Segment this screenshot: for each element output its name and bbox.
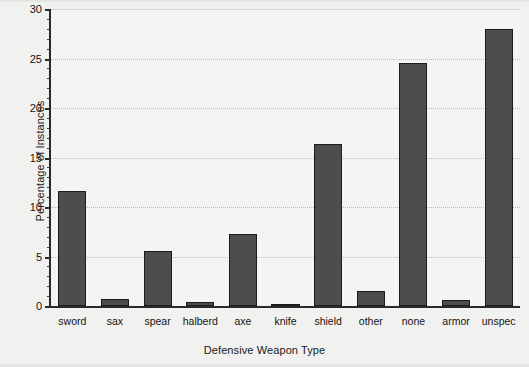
y-tick-label: 10 [30,201,42,213]
bar [58,191,86,306]
y-minor-tick [47,197,51,198]
y-minor-tick [47,78,51,79]
y-minor-tick [47,266,51,267]
x-axis-title: Defensive Weapon Type [0,344,529,356]
y-tick-mark [45,108,51,110]
x-tick-label: knife [274,315,296,327]
y-minor-tick [47,118,51,119]
gridline [51,158,520,159]
bar [399,63,427,306]
y-minor-tick [47,19,51,20]
x-tick-label: sax [107,315,123,327]
x-tick-label: armor [442,315,469,327]
gridline [51,108,520,109]
y-tick-label: 30 [30,3,42,15]
gridline [51,9,520,10]
bar [229,234,257,306]
bar [485,29,513,306]
x-tick-label: sword [58,315,86,327]
y-tick-mark [45,207,51,209]
bar [186,302,214,306]
y-minor-tick [47,217,51,218]
y-minor-tick [47,187,51,188]
bar-chart: Percentage of Instances 051015202530 swo… [0,0,529,367]
y-minor-tick [47,296,51,297]
y-minor-tick [47,167,51,168]
y-tick-label: 25 [30,53,42,65]
bar [271,304,299,306]
y-minor-tick [47,29,51,30]
y-minor-tick [47,286,51,287]
y-minor-tick [47,98,51,99]
gridline [51,207,520,208]
y-tick-mark [45,306,51,308]
y-minor-tick [47,247,51,248]
y-minor-tick [47,148,51,149]
y-tick-label: 15 [30,152,42,164]
y-minor-tick [47,128,51,129]
gridline [51,257,520,258]
y-tick-mark [45,59,51,61]
x-tick-label: halberd [183,315,218,327]
y-tick-label: 20 [30,102,42,114]
y-tick-mark [45,9,51,11]
y-minor-tick [47,227,51,228]
y-tick-mark [45,158,51,160]
y-tick-mark [45,257,51,259]
y-minor-tick [47,68,51,69]
bar [314,144,342,306]
x-tick-label: spear [144,315,170,327]
x-tick-label: axe [234,315,251,327]
y-minor-tick [47,138,51,139]
y-minor-tick [47,39,51,40]
bar [101,299,129,306]
x-tick-label: shield [314,315,341,327]
y-minor-tick [47,237,51,238]
y-minor-tick [47,177,51,178]
x-tick-label: none [402,315,425,327]
bar [357,291,385,306]
bar [144,251,172,306]
x-tick-label: unspec [482,315,516,327]
y-minor-tick [47,276,51,277]
y-tick-label: 5 [36,251,42,263]
plot-area: 051015202530 swordsaxspearhalberdaxeknif… [49,9,520,308]
y-minor-tick [47,49,51,50]
scan-artifact-top [0,0,529,2]
gridline [51,59,520,60]
y-minor-tick [47,88,51,89]
bar [442,300,470,306]
y-tick-label: 0 [36,300,42,312]
x-tick-label: other [359,315,383,327]
